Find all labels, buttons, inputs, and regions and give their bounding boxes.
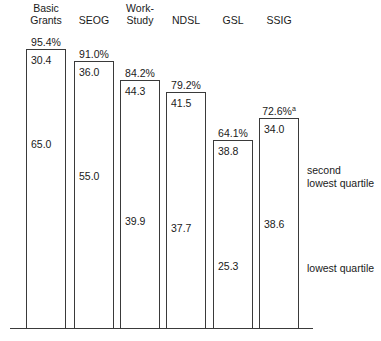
segment-value-gsl-upper: 38.8 [218, 145, 238, 157]
segment-value-ssig-lower: 38.6 [264, 218, 284, 230]
segment-value-work-study-upper: 44.3 [125, 85, 145, 97]
bar-total-label-work-study: 84.2% [110, 67, 170, 79]
segment-value-seog-lower: 55.0 [79, 170, 99, 182]
x-axis-baseline [10, 328, 313, 329]
segment-value-basic-grants-upper: 30.4 [31, 54, 51, 66]
total-value-work-study: 84.2% [125, 67, 155, 79]
total-value-basic-grants: 95.4% [31, 36, 61, 48]
annotation-lowest-quartile: lowest quartile [307, 262, 381, 275]
segment-value-ssig-upper: 34.0 [264, 123, 284, 135]
segment-value-basic-grants-lower: 65.0 [31, 138, 51, 150]
bar-segment-ssig-lower [259, 213, 299, 328]
segment-value-ndsl-lower: 37.7 [171, 222, 191, 234]
total-value-ndsl: 79.2% [171, 79, 201, 91]
bar-segment-work-study-lower [120, 210, 160, 328]
segment-value-ndsl-upper: 41.5 [171, 97, 191, 109]
bar-segment-work-study-upper [120, 80, 160, 211]
segment-value-gsl-lower: 25.3 [218, 260, 238, 272]
bar-segment-seog-lower [74, 165, 114, 328]
footnote-marker-ssig: a [292, 105, 296, 112]
bar-total-label-ssig: 72.6%a [247, 105, 311, 117]
bar-total-label-seog: 91.0% [64, 48, 124, 60]
bar-total-label-gsl: 64.1% [203, 127, 263, 139]
column-header-ssig: SSIG [249, 15, 309, 27]
bar-total-label-basic-grants: 95.4% [16, 36, 76, 48]
segment-value-seog-upper: 36.0 [79, 66, 99, 78]
bar-chart: Basic Grants SEOG Work- Study NDSL GSL S… [0, 0, 381, 341]
segment-value-work-study-lower: 39.9 [125, 215, 145, 227]
total-value-seog: 91.0% [79, 48, 109, 60]
bar-segment-gsl-upper [213, 140, 253, 256]
bar-segment-basic-grants-lower [26, 133, 66, 328]
bar-segment-ndsl-upper [166, 92, 206, 218]
annotation-second-lowest-quartile: second lowest quartile [307, 164, 381, 189]
total-value-ssig: 72.6% [262, 105, 292, 117]
total-value-gsl: 64.1% [218, 127, 248, 139]
bar-total-label-ndsl: 79.2% [156, 79, 216, 91]
